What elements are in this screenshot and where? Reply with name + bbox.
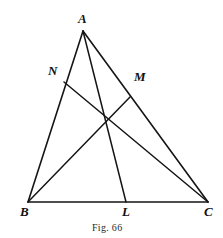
figure-caption: Fig. 66 [92,222,122,233]
triangle-sides [28,31,208,202]
figure-container: A N M B L C Fig. 66 [0,0,223,238]
triangle-diagram-svg [0,0,223,238]
side-AC [83,31,208,202]
side-AB [28,31,83,202]
vertex-label-b: B [20,205,29,218]
cevian-BM [28,97,130,202]
vertex-label-c: C [204,205,213,218]
vertex-label-a: A [78,12,87,25]
vertex-label-n: N [48,64,57,77]
vertex-label-l: L [122,205,130,218]
vertex-label-m: M [134,70,146,83]
